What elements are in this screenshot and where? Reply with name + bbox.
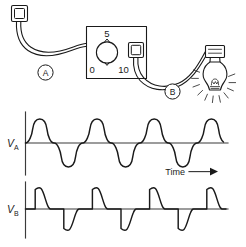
dial-scale-top: 5 <box>104 28 109 39</box>
cable-b-label: B <box>165 84 180 99</box>
time-axis-annotation: Time <box>165 167 218 177</box>
time-arrow-icon <box>210 168 218 176</box>
cable-a-label: A <box>38 65 53 80</box>
circuit-and-waveform-diagram: A 5 0 10 <box>0 0 246 247</box>
figure-canvas: A 5 0 10 <box>0 0 246 247</box>
cable-a-label-text: A <box>43 68 49 78</box>
plot-vb: VB <box>7 182 228 238</box>
plot-va: VA Time <box>7 112 228 177</box>
cable-a <box>16 22 87 56</box>
lightbulb-icon <box>192 46 236 103</box>
dial-scale-left: 0 <box>90 64 95 75</box>
plot-va-axis-label: VA <box>7 137 19 151</box>
dimmer-box[interactable]: 5 0 10 <box>87 27 147 79</box>
outlet-icon[interactable] <box>129 43 144 58</box>
plot-vb-axis-label: VB <box>7 203 19 217</box>
time-axis-label: Time <box>165 167 185 177</box>
plug-icon <box>12 6 28 22</box>
circuit-group: A 5 0 10 <box>12 6 236 103</box>
cable-b-label-text: B <box>170 87 176 97</box>
dial-scale-right: 10 <box>118 64 129 75</box>
